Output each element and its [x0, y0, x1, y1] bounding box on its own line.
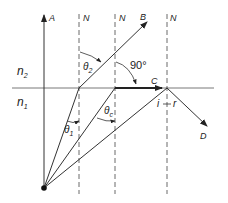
theta1-arc: [67, 121, 79, 123]
medium-n1-label: n1: [17, 95, 28, 110]
ray-c-label: C: [151, 76, 158, 86]
reflection-angle-label: r: [173, 98, 177, 109]
incidence-angle-label: i: [157, 98, 160, 109]
theta2-label: θ2: [83, 61, 92, 74]
ray-c-incident: [44, 88, 115, 188]
normal-label-2: N: [119, 13, 126, 23]
normal-label-1: N: [83, 13, 90, 23]
ray-b-incident: [44, 88, 79, 188]
right-angle-label: 90°: [130, 59, 147, 71]
ray-a-label: A: [48, 13, 55, 23]
normal-label-3: N: [170, 13, 177, 23]
theta1-label: θ1: [64, 124, 73, 137]
medium-n2-label: n2: [17, 64, 28, 79]
thetac-label: θc: [104, 105, 113, 118]
ray-b-label: B: [140, 12, 146, 22]
thetac-arc: [97, 118, 115, 121]
refraction-total-internal-reflection-diagram: A B C D N N N n2 n1 θ2 90° θ1 θc i r: [0, 0, 228, 203]
ray-d-label: D: [200, 131, 207, 141]
light-source-dot: [41, 185, 47, 191]
ray-d-incident: [44, 88, 167, 188]
